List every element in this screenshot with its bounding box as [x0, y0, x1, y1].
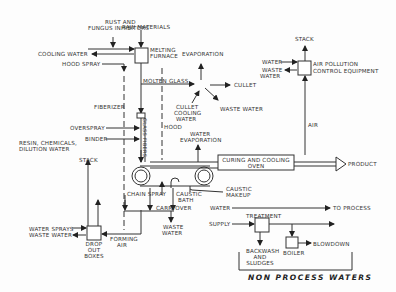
- label-furnace: FURNACE: [150, 53, 178, 59]
- label-supply: SUPPLY: [209, 221, 230, 227]
- label-oven-2: OVEN: [220, 163, 292, 169]
- melting-furnace-box: [135, 48, 148, 63]
- label-water-evap-2: EVAPORATION: [180, 137, 222, 143]
- label-evaporation: EVAPORATION: [182, 51, 224, 57]
- label-molten-glass: MOLTEN GLASS: [143, 78, 188, 84]
- label-resin-2: DILUTION WATER: [19, 146, 70, 152]
- label-boxes: BOXES: [82, 253, 106, 259]
- label-forming-air: AIR: [117, 242, 127, 248]
- label-cooling-water: COOLING WATER: [38, 51, 88, 57]
- label-cullet-cooling-3: WATER: [176, 116, 196, 122]
- label-cw-waste-2: WATER: [162, 230, 182, 236]
- label-stack-top: STACK: [295, 36, 314, 42]
- label-product: PRODUCT: [348, 161, 377, 167]
- label-boiler: BOILER: [283, 250, 305, 256]
- label-apc-water: WATER: [262, 59, 282, 65]
- label-waste-water: WASTE WATER: [220, 106, 263, 112]
- label-carryover: CARRYOVER: [156, 205, 192, 211]
- label-overspray: OVERSPRAY: [70, 125, 105, 131]
- label-to-process: TO PROCESS: [333, 205, 371, 211]
- label-hood: HOOD: [164, 124, 182, 130]
- label-apc-1: AIR POLLUTION: [313, 61, 358, 67]
- label-air: AIR: [308, 122, 318, 128]
- label-do-waste-water: WASTE WATER: [29, 232, 72, 238]
- label-hood-spray: HOOD SPRAY: [62, 61, 101, 67]
- process-flow-diagram: RUST AND FUNGUS INHIBITORS RAW MATERIALS…: [0, 0, 396, 292]
- label-glass-fibers: GLASS FIBERS: [142, 118, 148, 157]
- label-chain-spray: CHAIN SPRAY: [127, 191, 166, 197]
- label-blowdown: BLOWDOWN: [313, 241, 350, 247]
- label-raw-materials: RAW MATERIALS: [122, 24, 170, 30]
- label-npw-water: WATER: [210, 205, 230, 211]
- label-apc-2: CONTROL EQUIPMENT: [313, 68, 379, 74]
- label-stack-bottom: STACK: [79, 157, 98, 163]
- label-binder: BINDER: [85, 136, 108, 142]
- label-caustic-bath-2: BATH: [178, 197, 194, 203]
- label-non-process-waters: NON PROCESS WATERS: [248, 275, 372, 281]
- label-cullet: CULLET: [234, 82, 256, 88]
- label-sludges: SLUDGES: [246, 260, 274, 266]
- label-caustic-makeup-2: MAKEUP: [226, 192, 251, 198]
- label-apc-waste-2: WATER: [260, 73, 280, 79]
- label-fiberizer: FIBERIZER: [94, 104, 125, 110]
- label-treatment: TREATMENT: [246, 213, 281, 219]
